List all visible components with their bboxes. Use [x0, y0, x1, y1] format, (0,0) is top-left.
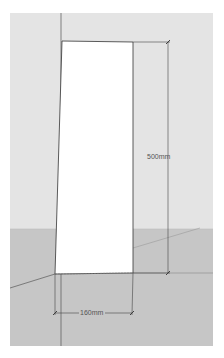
white-panel[interactable] [55, 41, 133, 274]
sketchup-viewport[interactable] [10, 13, 213, 346]
3d-scene[interactable] [10, 13, 213, 346]
height-dimension-label[interactable]: 500mm [147, 153, 170, 160]
width-dimension-label[interactable]: 160mm [80, 309, 103, 316]
